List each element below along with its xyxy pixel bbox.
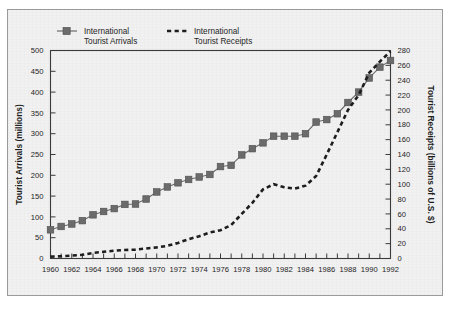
series-marker — [143, 196, 150, 203]
series-marker — [185, 176, 192, 183]
y2-axis-tick-label: 60 — [398, 210, 406, 219]
series-marker — [79, 217, 86, 224]
y2-axis-tick-label: 120 — [398, 165, 411, 174]
series-marker — [153, 189, 160, 196]
series-marker — [292, 133, 299, 140]
y-axis-tick-label: 100 — [31, 213, 44, 222]
chart-legend: InternationalTourist ArrivalsInternation… — [57, 27, 252, 46]
y-axis-tick-label: 500 — [31, 46, 44, 55]
series-marker — [196, 174, 203, 181]
chart-tick-labels: 0501001502002503003504004505000204060801… — [31, 46, 410, 273]
plot-area-border — [51, 51, 391, 259]
series-marker — [111, 205, 118, 212]
series-marker — [175, 179, 182, 186]
y2-axis-tick-label: 200 — [398, 106, 411, 115]
y-axis-title: Tourist Arrivals (millions) — [14, 104, 24, 205]
x-axis-tick-label: 1970 — [148, 265, 165, 274]
y-axis-tick-label: 300 — [31, 129, 44, 138]
legend-label-line1: International — [194, 27, 239, 36]
y2-axis-tick-label: 180 — [398, 120, 411, 129]
series-marker — [132, 201, 139, 208]
y2-axis-tick-label: 20 — [398, 239, 406, 248]
y-axis-tick-label: 200 — [31, 171, 44, 180]
x-axis-tick-label: 1978 — [233, 265, 250, 274]
series-marker — [100, 208, 107, 215]
y-axis-tick-label: 250 — [31, 150, 44, 159]
y-axis-tick-label: 50 — [35, 233, 43, 242]
series-marker — [58, 223, 65, 230]
y2-axis-tick-label: 40 — [398, 224, 406, 233]
series-marker — [238, 152, 245, 159]
x-axis-tick-label: 1980 — [255, 265, 272, 274]
x-axis-tick-label: 1986 — [318, 265, 335, 274]
series-line-1 — [51, 60, 391, 229]
x-axis-tick-label: 1976 — [212, 265, 229, 274]
x-axis-tick-label: 1968 — [127, 265, 144, 274]
series-marker — [228, 162, 235, 169]
y-axis-tick-label: 0 — [39, 254, 43, 263]
series-marker — [68, 221, 75, 228]
series-marker — [164, 184, 171, 191]
y2-axis-tick-label: 220 — [398, 91, 411, 100]
series-marker — [270, 133, 277, 140]
chart-axes — [51, 51, 391, 259]
y2-axis-tick-label: 80 — [398, 195, 406, 204]
legend-label-line2: Tourist Receipts — [194, 37, 252, 46]
legend-label-line1: International — [84, 27, 129, 36]
y2-axis-tick-label: 240 — [398, 76, 411, 85]
x-axis-tick-label: 1962 — [63, 265, 80, 274]
series-marker — [90, 212, 97, 219]
series-marker — [313, 119, 320, 126]
x-axis-tick-label: 1990 — [361, 265, 378, 274]
x-axis-tick-label: 1992 — [382, 265, 399, 274]
y2-axis-tick-label: 100 — [398, 180, 411, 189]
series-marker — [387, 57, 394, 64]
y-axis-tick-label: 450 — [31, 67, 44, 76]
y2-axis-title: Tourist Receipts (billions of U.S. $) — [426, 85, 436, 223]
series-marker — [334, 110, 341, 117]
x-axis-tick-label: 1960 — [42, 265, 59, 274]
y2-axis-tick-label: 260 — [398, 61, 411, 70]
chart-tick-marks — [51, 51, 391, 259]
series-marker — [122, 201, 129, 208]
x-axis-tick-label: 1982 — [276, 265, 293, 274]
chart-figure: InternationalTourist ArrivalsInternation… — [0, 0, 452, 309]
y2-axis-tick-label: 140 — [398, 150, 411, 159]
legend-marker-square — [63, 27, 70, 34]
series-marker — [217, 163, 224, 170]
y-axis-tick-label: 150 — [31, 192, 44, 201]
series-marker — [302, 130, 309, 137]
series-marker — [323, 116, 330, 123]
y-axis-tick-label: 350 — [31, 109, 44, 118]
x-axis-tick-label: 1988 — [340, 265, 357, 274]
y2-axis-tick-label: 160 — [398, 135, 411, 144]
x-axis-tick-label: 1964 — [85, 265, 102, 274]
y-axis-tick-label: 400 — [31, 88, 44, 97]
series-marker — [249, 145, 256, 152]
x-axis-tick-label: 1974 — [191, 265, 208, 274]
chart-canvas: InternationalTourist ArrivalsInternation… — [0, 0, 452, 309]
chart-axis-titles: Tourist Arrivals (millions)Tourist Recei… — [14, 85, 436, 223]
y2-axis-tick-label: 0 — [398, 254, 402, 263]
series-line-2 — [51, 51, 391, 256]
chart-series — [47, 51, 394, 256]
series-marker — [207, 171, 214, 178]
x-axis-tick-label: 1972 — [170, 265, 187, 274]
series-marker — [281, 133, 288, 140]
x-axis-tick-label: 1984 — [297, 265, 314, 274]
x-axis-tick-label: 1966 — [106, 265, 123, 274]
series-marker — [377, 64, 384, 71]
legend-label-line2: Tourist Arrivals — [84, 37, 137, 46]
series-marker — [260, 140, 267, 147]
series-marker — [47, 227, 54, 234]
y2-axis-tick-label: 280 — [398, 46, 411, 55]
